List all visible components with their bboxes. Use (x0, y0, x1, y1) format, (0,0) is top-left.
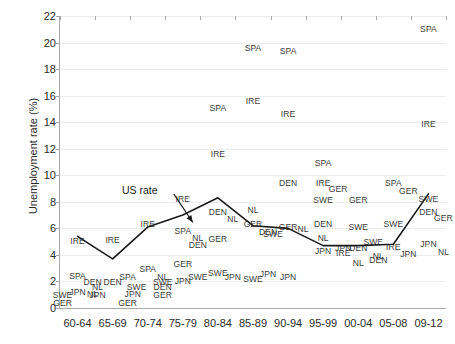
unemployment-rate-chart: Unemployment rate (%) 024681012141618202… (0, 0, 455, 344)
y-tick-label: 18 (44, 63, 56, 75)
x-tick-mark (446, 16, 447, 20)
x-tick-label: 95-99 (309, 317, 337, 329)
x-tick-label: 00-04 (344, 317, 372, 329)
x-tick-label: 05-08 (379, 317, 407, 329)
y-tick-label: 14 (44, 116, 56, 128)
x-tick-label: 70-74 (134, 317, 162, 329)
x-tick-label: 90-94 (274, 317, 302, 329)
x-tick-label: 75-79 (169, 317, 197, 329)
x-tick-label: 80-84 (204, 317, 232, 329)
y-tick-label: 22 (44, 10, 56, 22)
y-tick-label: 10 (44, 169, 56, 181)
y-tick-label: 20 (44, 37, 56, 49)
us-rate-annotation-arrow (60, 16, 446, 308)
x-tick-label: 65-69 (99, 317, 127, 329)
x-tick-label: 09-12 (414, 317, 442, 329)
x-tick-label: 85-89 (239, 317, 267, 329)
y-tick-label: 16 (44, 90, 56, 102)
us-rate-annotation-label: US rate (122, 184, 158, 196)
y-tick-label: 12 (44, 143, 56, 155)
x-tick-label: 60-64 (63, 317, 91, 329)
y-axis-label: Unemployment rate (%) (27, 61, 39, 251)
plot-area: 0246810121416182022 60-6465-6970-7475-79… (59, 16, 446, 309)
